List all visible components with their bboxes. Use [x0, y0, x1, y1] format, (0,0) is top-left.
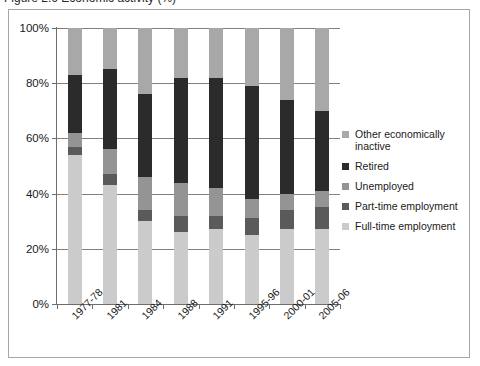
plot-background — [57, 28, 340, 304]
plot-area: 0%20%40%60%80%100% — [57, 28, 340, 304]
bar-segment — [280, 28, 294, 100]
bar-segment — [209, 229, 223, 304]
y-axis-tick-label: 0% — [32, 298, 49, 310]
legend-item[interactable]: Other economically inactive — [342, 128, 464, 152]
stacked-bar[interactable] — [103, 28, 117, 304]
gridline — [57, 249, 340, 250]
bar-segment — [245, 235, 259, 304]
bar-segment — [245, 86, 259, 199]
bar-segment — [103, 149, 117, 174]
bar-segment — [315, 207, 329, 229]
bar-segment — [209, 28, 223, 78]
legend-swatch-icon — [342, 203, 349, 210]
bar-segment — [138, 221, 152, 304]
gridline — [57, 194, 340, 195]
bar-segment — [280, 194, 294, 211]
legend-item-label: Unemployed — [355, 180, 414, 192]
bar-segment — [138, 210, 152, 221]
bar-segment — [174, 78, 188, 183]
gridline — [57, 28, 340, 29]
y-axis-tick-label: 80% — [26, 77, 49, 89]
bar-segment — [68, 133, 82, 147]
y-axis-line — [56, 27, 57, 305]
y-axis-tick — [52, 194, 57, 195]
y-axis-tick — [52, 28, 57, 29]
bar-segment — [174, 183, 188, 216]
bar-segment — [315, 28, 329, 111]
legend-item-label: Full-time employment — [355, 220, 455, 232]
legend-swatch-icon — [342, 131, 349, 138]
bar-segment — [245, 218, 259, 235]
y-axis-tick-label: 20% — [26, 243, 49, 255]
chart-legend: Other economically inactiveRetiredUnempl… — [342, 128, 464, 240]
legend-item[interactable]: Unemployed — [342, 180, 464, 192]
y-axis-tick — [52, 138, 57, 139]
bar-segment — [209, 78, 223, 188]
y-axis-tick — [52, 83, 57, 84]
y-axis-tick-label: 60% — [26, 132, 49, 144]
legend-item[interactable]: Full-time employment — [342, 220, 464, 232]
stacked-bar[interactable] — [138, 28, 152, 304]
legend-item[interactable]: Retired — [342, 160, 464, 172]
bar-segment — [174, 216, 188, 233]
gridline — [57, 83, 340, 84]
legend-swatch-icon — [342, 183, 349, 190]
bar-segment — [138, 177, 152, 210]
stacked-bar[interactable] — [68, 28, 82, 304]
bar-segment — [103, 28, 117, 69]
bar-segment — [68, 28, 82, 75]
gridline — [57, 138, 340, 139]
y-axis-tick — [52, 249, 57, 250]
legend-item-label: Other economically inactive — [355, 128, 464, 152]
bar-segment — [245, 28, 259, 86]
legend-item-label: Part-time employment — [355, 200, 458, 212]
bar-segment — [138, 28, 152, 94]
bar-segment — [103, 69, 117, 149]
chart-frame: 0%20%40%60%80%100% 1977-7819811984198819… — [8, 9, 470, 358]
legend-item[interactable]: Part-time employment — [342, 200, 464, 212]
bar-segment — [174, 28, 188, 78]
stacked-bar[interactable] — [280, 28, 294, 304]
bar-segment — [280, 100, 294, 194]
legend-swatch-icon — [342, 223, 349, 230]
stacked-bar[interactable] — [174, 28, 188, 304]
bar-segment — [209, 216, 223, 230]
bar-segment — [103, 174, 117, 185]
bar-segment — [315, 229, 329, 304]
bar-segment — [280, 210, 294, 229]
stacked-bar[interactable] — [315, 28, 329, 304]
bar-segment — [68, 75, 82, 133]
chart-caption: Figure 2.6 Economic activity (%) — [4, 0, 176, 5]
bar-segment — [174, 232, 188, 304]
bar-segment — [245, 199, 259, 218]
legend-item-label: Retired — [355, 160, 389, 172]
x-axis-tick — [57, 304, 58, 309]
bar-segment — [209, 188, 223, 216]
bar-segment — [138, 94, 152, 177]
legend-swatch-icon — [342, 163, 349, 170]
bar-segment — [315, 191, 329, 208]
bar-segment — [315, 111, 329, 191]
bar-segment — [280, 229, 294, 304]
chart-caption-strip: Figure 2.6 Economic activity (%) — [0, 0, 480, 8]
bar-segment — [103, 185, 117, 304]
bar-segment — [68, 155, 82, 304]
stacked-bar[interactable] — [245, 28, 259, 304]
stacked-bar[interactable] — [209, 28, 223, 304]
y-axis-tick-label: 100% — [20, 22, 49, 34]
bar-segment — [68, 147, 82, 155]
y-axis-tick-label: 40% — [26, 188, 49, 200]
